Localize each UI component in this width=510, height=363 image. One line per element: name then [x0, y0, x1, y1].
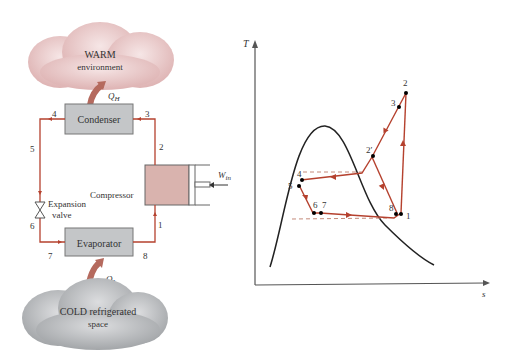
state-5: 5 — [30, 144, 35, 154]
state-6: 6 — [30, 221, 35, 231]
state-2: 2 — [159, 142, 164, 152]
point-3: 3 — [391, 98, 396, 108]
piston-rod — [195, 182, 210, 187]
valve-label-2: valve — [52, 210, 72, 220]
point-6: 6 — [313, 200, 318, 210]
expansion-valve-icon — [35, 202, 45, 218]
warm-label-1: WARM — [84, 49, 115, 60]
cold-label-1: COLD refrigerated — [60, 306, 136, 317]
state-4: 4 — [52, 109, 57, 119]
point-1: 1 — [406, 211, 411, 221]
s-axis-label: s — [482, 289, 486, 299]
cold-label-2: space — [88, 319, 108, 329]
condenser-label: Condenser — [78, 114, 121, 125]
state-8: 8 — [143, 251, 148, 261]
qh-label: QH — [108, 91, 121, 103]
state-points — [297, 91, 408, 216]
point-8: 8 — [389, 203, 394, 213]
work-in-label: Win — [218, 170, 231, 182]
point-5: 5 — [288, 181, 293, 191]
t-axis-label: T — [243, 38, 250, 49]
state-3: 3 — [145, 109, 150, 119]
evaporator-label: Evaporator — [77, 238, 122, 249]
warm-label-2: environment — [77, 62, 123, 72]
state-1: 1 — [158, 220, 163, 230]
compressor-label: Compressor — [90, 190, 134, 200]
point-2: 2 — [403, 78, 408, 88]
refrigerant-piping — [40, 119, 155, 242]
valve-label-1: Expansion — [48, 199, 86, 209]
point-2-prime: 2′ — [366, 145, 373, 155]
ts-axes — [252, 40, 490, 286]
point-7: 7 — [322, 200, 327, 210]
point-4: 4 — [297, 169, 302, 179]
saturation-dome — [270, 126, 434, 267]
compressor-box — [145, 165, 189, 205]
state-7: 7 — [48, 251, 53, 261]
